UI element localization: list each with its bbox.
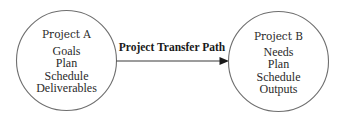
node-project-b-title: Project B [254, 30, 303, 42]
edge-label: Project Transfer Path [119, 41, 226, 54]
node-project-a-title: Project A [42, 28, 91, 40]
project-transfer-diagram: Project A Goals Plan Schedule Deliverabl… [0, 0, 342, 117]
node-project-a: Project A Goals Plan Schedule Deliverabl… [17, 11, 117, 111]
edge-project-transfer-path: Project Transfer Path [117, 41, 230, 65]
node-project-b: Project B Needs Plan Schedule Outputs [229, 12, 329, 112]
node-project-b-item-outputs: Outputs [259, 82, 297, 96]
arrowhead-icon [220, 57, 230, 65]
node-project-a-item-deliverables: Deliverables [36, 81, 97, 95]
